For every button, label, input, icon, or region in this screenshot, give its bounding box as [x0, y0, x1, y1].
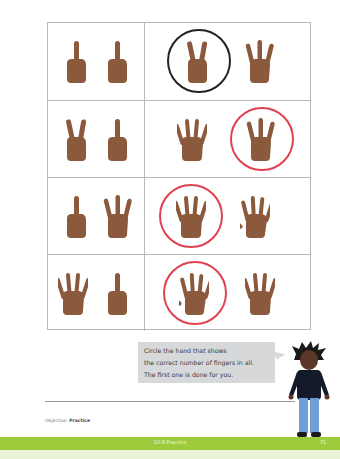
- three-finger-hand-choice-icon[interactable]: [245, 37, 275, 87]
- instruction-line: the correct number of fingers in all.: [144, 357, 269, 369]
- four-finger-hand-icon: [58, 269, 88, 319]
- addend-cell: [48, 101, 145, 177]
- page-footer-bar: 10-8 Practice 71: [0, 437, 340, 450]
- choice-cell: [145, 255, 310, 331]
- instruction-line: Circle the hand that shows: [144, 345, 269, 357]
- instruction-speech-bubble: Circle the hand that shows the correct n…: [138, 342, 275, 383]
- two-finger-hand-icon: [62, 115, 92, 165]
- five-finger-hand-choice-icon[interactable]: [240, 192, 270, 242]
- objective-label: Objective: Practice: [45, 418, 90, 423]
- exercise-row-3: [48, 177, 310, 254]
- exercise-row-1: [48, 23, 310, 100]
- choice-cell: [145, 101, 310, 177]
- two-finger-hand-choice-icon[interactable]: [183, 37, 213, 87]
- child-character-illustration: [284, 340, 334, 440]
- addend-cell: [48, 255, 145, 331]
- one-finger-hand-icon: [103, 269, 133, 319]
- addend-cell: [48, 23, 145, 100]
- divider-line: [45, 401, 295, 402]
- one-finger-hand-icon: [62, 37, 92, 87]
- four-finger-hand-choice-icon[interactable]: [245, 269, 275, 319]
- one-finger-hand-icon: [103, 115, 133, 165]
- exercise-row-4: [48, 254, 310, 331]
- one-finger-hand-icon: [62, 192, 92, 242]
- choice-cell: [145, 178, 310, 254]
- four-finger-hand-choice-icon[interactable]: [177, 115, 207, 165]
- page-number: 71: [320, 439, 326, 445]
- four-finger-hand-choice-icon[interactable]: [176, 192, 206, 242]
- footer-strip: [0, 450, 340, 459]
- lesson-title: 10-8 Practice: [0, 439, 340, 445]
- objective-value: Practice: [69, 418, 90, 423]
- three-finger-hand-choice-icon[interactable]: [246, 115, 276, 165]
- exercise-row-2: [48, 100, 310, 177]
- exercise-grid: [47, 22, 311, 330]
- three-finger-hand-icon: [103, 192, 133, 242]
- five-finger-hand-choice-icon[interactable]: [179, 269, 209, 319]
- addend-cell: [48, 178, 145, 254]
- instruction-line: The first one is done for you.: [144, 369, 269, 381]
- one-finger-hand-icon: [103, 37, 133, 87]
- choice-cell: [145, 23, 310, 100]
